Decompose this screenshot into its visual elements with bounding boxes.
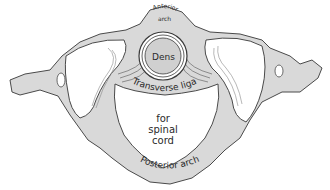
label-anterior-arch-2: arch	[158, 15, 171, 22]
left-transverse-foramen	[57, 73, 65, 87]
label-dens: Dens	[152, 52, 175, 62]
label-cord: cord	[152, 135, 174, 146]
label-for: for	[156, 113, 171, 124]
atlas-vertebra-illustration: Anterior arch Dens Transverse ligament f…	[0, 0, 330, 190]
label-spinal: spinal	[148, 124, 178, 135]
atlas-vertebra-diagram: Anterior arch Dens Transverse ligament f…	[0, 0, 330, 190]
right-transverse-foramen	[275, 65, 283, 77]
